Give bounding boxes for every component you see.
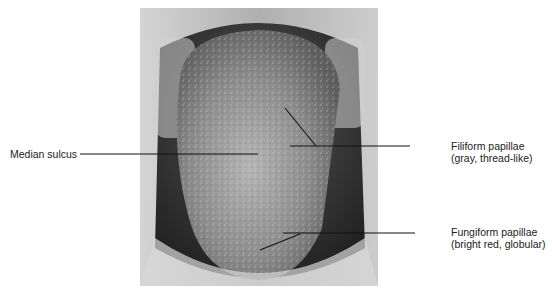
fungiform-leader-diagonal <box>260 234 300 250</box>
fungiform-title: Fungiform papillae <box>451 226 546 238</box>
fungiform-papillae-label: Fungiform papillae (bright red, globular… <box>451 226 546 250</box>
median-sulcus-text: Median sulcus <box>10 148 77 160</box>
fungiform-description: (bright red, globular) <box>451 238 546 250</box>
filiform-leader-diagonal <box>285 108 316 146</box>
filiform-title: Filiform papillae <box>451 140 533 152</box>
filiform-description: (gray, thread-like) <box>451 152 533 164</box>
filiform-papillae-label: Filiform papillae (gray, thread-like) <box>451 140 533 164</box>
median-sulcus-label: Median sulcus <box>10 148 77 160</box>
